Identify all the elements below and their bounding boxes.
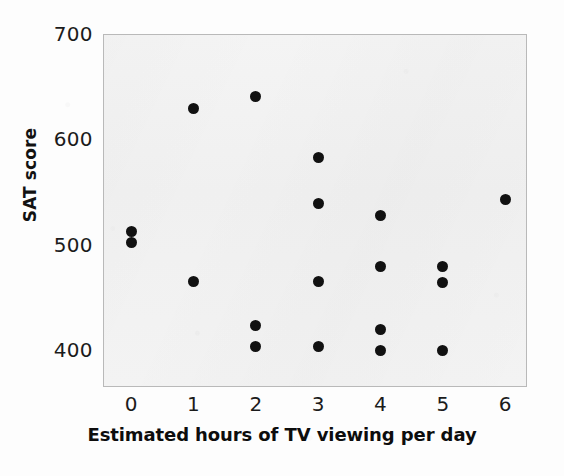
- x-tick-label: 0: [125, 392, 138, 416]
- data-point: [188, 276, 199, 287]
- data-point: [313, 276, 324, 287]
- data-point: [126, 226, 137, 237]
- data-point: [437, 345, 448, 356]
- plot-background: [104, 35, 526, 386]
- x-tick-label: 6: [499, 392, 512, 416]
- x-tick-label: 2: [249, 392, 262, 416]
- x-tick-label: 4: [374, 392, 387, 416]
- data-point: [250, 91, 261, 102]
- y-tick-label: 700: [54, 22, 93, 46]
- data-point: [500, 194, 511, 205]
- x-tick-label: 5: [436, 392, 449, 416]
- data-point: [375, 324, 386, 335]
- x-tick-label: 3: [312, 392, 325, 416]
- data-point: [375, 210, 386, 221]
- y-tick-label: 400: [54, 338, 93, 362]
- scatter-plot-figure: SAT score 400500600700 0123456 Estimated…: [0, 0, 564, 476]
- data-point: [313, 152, 324, 163]
- data-point: [313, 198, 324, 209]
- y-tick-label: 500: [54, 233, 93, 257]
- data-point: [375, 345, 386, 356]
- data-point: [126, 237, 137, 248]
- x-tick-label: 1: [187, 392, 200, 416]
- x-axis-tick-labels: 0123456: [0, 392, 564, 422]
- plot-area: [103, 34, 527, 387]
- x-axis-title: Estimated hours of TV viewing per day: [0, 424, 564, 445]
- y-tick-label: 600: [54, 127, 93, 151]
